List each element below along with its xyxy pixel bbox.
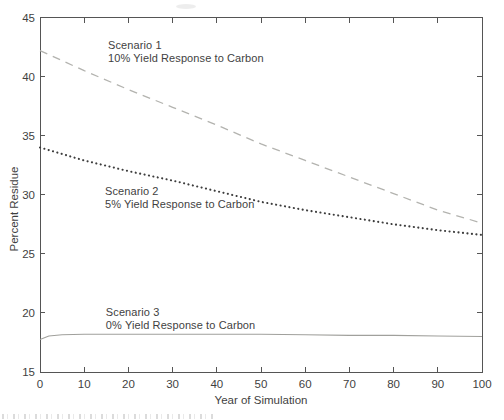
x-tick-label: 70	[343, 378, 356, 390]
annotation-line: 5% Yield Response to Carbon	[105, 198, 254, 211]
y-tick-label: 45	[22, 12, 35, 24]
x-tick-label: 30	[166, 378, 179, 390]
x-tick-label: 40	[210, 378, 223, 390]
x-axis-title: Year of Simulation	[215, 394, 308, 406]
annotation-line: Scenario 2	[105, 185, 254, 198]
series-scenario-3	[40, 334, 482, 339]
x-tick-label: 20	[122, 378, 135, 390]
cropped-caption-fragment	[2, 414, 214, 419]
x-tick-label: 0	[37, 378, 43, 390]
y-tick-label: 30	[22, 189, 35, 201]
y-tick-label: 25	[22, 248, 35, 260]
annotation-scenario-3: Scenario 30% Yield Response to Carbon	[106, 306, 255, 332]
x-tick-label: 60	[299, 378, 312, 390]
scan-artifact-smudge	[176, 4, 196, 9]
annotation-scenario-2: Scenario 25% Yield Response to Carbon	[105, 185, 254, 211]
x-tick-label: 100	[472, 378, 491, 390]
figure-canvas: 010203040506070809010015202530354045 Yea…	[0, 0, 504, 420]
y-tick-label: 35	[22, 130, 35, 142]
y-axis-title: Percent Residue	[8, 166, 20, 251]
x-tick-label: 10	[78, 378, 91, 390]
x-tick-label: 90	[431, 378, 444, 390]
x-tick-label: 50	[255, 378, 268, 390]
annotation-scenario-1: Scenario 110% Yield Response to Carbon	[108, 39, 264, 65]
y-tick-label: 15	[22, 366, 35, 378]
annotation-line: 0% Yield Response to Carbon	[106, 319, 255, 332]
annotation-line: Scenario 1	[108, 39, 264, 52]
x-tick-label: 80	[387, 378, 400, 390]
y-tick-label: 20	[22, 307, 35, 319]
annotation-line: Scenario 3	[106, 306, 255, 319]
annotation-line: 10% Yield Response to Carbon	[108, 52, 264, 65]
y-tick-label: 40	[22, 71, 35, 83]
